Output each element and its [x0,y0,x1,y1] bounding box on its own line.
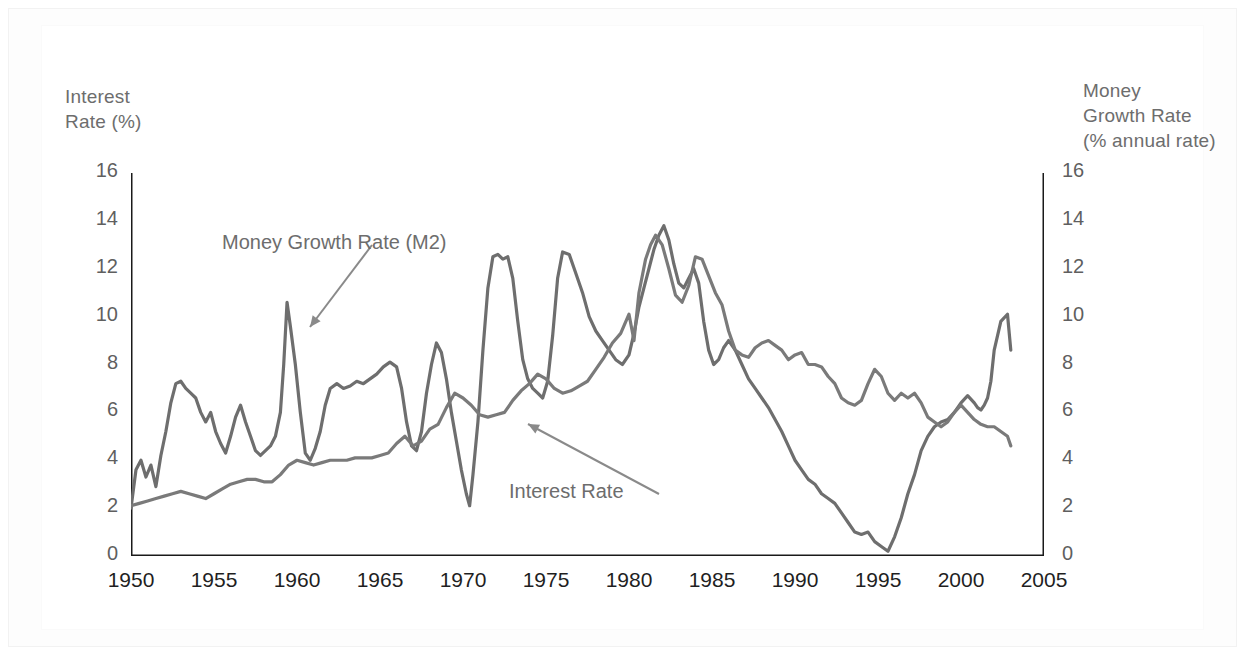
left-axis-title: Interest Rate (%) [65,84,142,134]
x-axis-tick-label: 1990 [755,568,835,592]
x-axis-tick-label: 1950 [91,568,171,592]
x-axis-tick-label: 1965 [340,568,420,592]
x-axis-tick-label: 2005 [1004,568,1084,592]
chart-annotation-label: Money Growth Rate (M2) [222,231,447,254]
left-axis-title-line2: Rate (%) [65,109,142,134]
y-axis-tick-label-right: 0 [1062,542,1108,565]
right-axis-title-line1: Money [1083,78,1216,103]
y-axis-tick-label-left: 8 [72,351,118,374]
x-axis-tick-label: 1960 [257,568,337,592]
x-axis-tick-label: 2000 [921,568,1001,592]
y-axis-tick-label-left: 12 [72,255,118,278]
y-axis-tick-label-right: 4 [1062,446,1108,469]
y-axis-tick-label-left: 10 [72,303,118,326]
y-axis-tick-label-right: 16 [1062,159,1108,182]
chart-annotation-label: Interest Rate [509,480,624,503]
y-axis-tick-label-left: 16 [72,159,118,182]
series-line [131,235,1011,505]
x-axis-tick-label: 1980 [589,568,669,592]
y-axis-tick-label-right: 6 [1062,398,1108,421]
y-axis-tick-label-left: 4 [72,446,118,469]
y-axis-tick-label-left: 2 [72,494,118,517]
x-axis-tick-label: 1985 [672,568,752,592]
y-axis-tick-label-right: 12 [1062,255,1108,278]
y-axis-tick-label-left: 6 [72,398,118,421]
x-axis-tick-label: 1955 [174,568,254,592]
x-axis-tick-label: 1975 [506,568,586,592]
right-axis-title-line3: (% annual rate) [1083,128,1216,153]
y-axis-tick-label-right: 10 [1062,303,1108,326]
right-axis-title-line2: Growth Rate [1083,103,1216,128]
x-axis-tick-label: 1970 [423,568,503,592]
x-axis-tick-label: 1995 [838,568,918,592]
figure-container: Interest Rate (%) Money Growth Rate (% a… [0,0,1245,655]
left-axis-title-line1: Interest [65,84,142,109]
y-axis-tick-label-left: 14 [72,207,118,230]
y-axis-tick-label-right: 2 [1062,494,1108,517]
y-axis-tick-label-right: 14 [1062,207,1108,230]
y-axis-tick-label-right: 8 [1062,351,1108,374]
y-axis-tick-label-left: 0 [72,542,118,565]
right-axis-title: Money Growth Rate (% annual rate) [1083,78,1216,153]
